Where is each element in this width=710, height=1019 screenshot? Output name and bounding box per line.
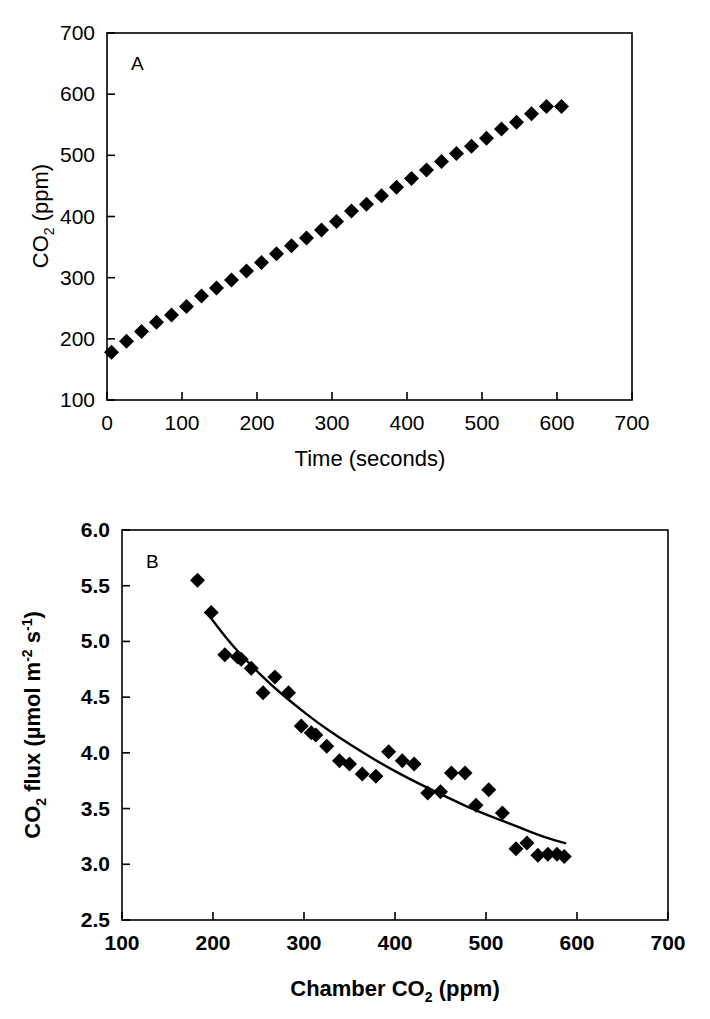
data-point-marker	[355, 767, 370, 782]
fit-curve-path	[208, 615, 565, 843]
data-point-marker	[449, 146, 464, 161]
chart-panel-b: 1002003004005006007002.53.03.54.04.55.05…	[0, 500, 710, 1019]
data-point-marker	[224, 273, 239, 288]
data-point-marker	[468, 798, 483, 813]
data-point-marker	[269, 246, 284, 261]
x-tick-label: 500	[468, 931, 503, 954]
data-point-marker	[244, 661, 259, 676]
data-point-marker	[420, 785, 435, 800]
x-tick-label: 300	[286, 931, 321, 954]
data-point-marker	[359, 197, 374, 212]
panel-b-tick-labels: 1002003004005006007002.53.03.54.04.55.05…	[81, 518, 686, 954]
data-point-marker	[407, 757, 422, 772]
y-tick-label: 4.5	[81, 685, 111, 708]
data-point-marker	[381, 744, 396, 759]
data-point-marker	[434, 154, 449, 169]
data-point-marker	[509, 115, 524, 130]
x-tick-label: 200	[239, 411, 274, 434]
panel-a-data-points	[104, 99, 569, 360]
panel-b-x-axis-title: Chamber CO2 (ppm)	[290, 976, 499, 1005]
y-tick-label: 2.5	[81, 908, 111, 931]
data-point-marker	[329, 214, 344, 229]
data-point-marker	[284, 238, 299, 253]
data-point-marker	[404, 171, 419, 186]
panel-b-y-title-rest: )	[20, 611, 45, 618]
data-point-marker	[149, 315, 164, 330]
y-tick-label: 300	[60, 266, 95, 289]
data-point-marker	[479, 131, 494, 146]
x-tick-label: 100	[104, 931, 139, 954]
data-point-marker	[524, 106, 539, 121]
data-point-marker	[256, 685, 271, 700]
data-point-marker	[374, 188, 389, 203]
y-tick-label: 3.0	[81, 852, 110, 875]
data-point-marker	[494, 122, 509, 137]
data-point-marker	[179, 299, 194, 314]
y-tick-label: 4.0	[81, 741, 110, 764]
data-point-marker	[194, 289, 209, 304]
panel-b-y-title-base: CO	[20, 806, 45, 839]
y-tick-label: 400	[60, 205, 95, 228]
panel-a-y-title-rest: (ppm)	[28, 164, 53, 228]
data-point-marker	[554, 99, 569, 114]
panel-letter-b: B	[146, 551, 159, 572]
data-point-marker	[539, 99, 554, 114]
panel-b-y-axis-title: CO2 flux (µmol m-2 s-1)	[19, 611, 49, 839]
data-point-marker	[239, 263, 254, 278]
data-point-marker	[444, 765, 459, 780]
panel-b-x-title-sub: 2	[425, 989, 433, 1005]
panel-b-fit-curve	[208, 615, 565, 843]
panel-a-plot-frame	[107, 33, 632, 400]
data-point-marker	[481, 782, 496, 797]
y-tick-label: 5.0	[81, 629, 110, 652]
data-point-marker	[209, 281, 224, 296]
panel-a-ticks	[107, 33, 632, 400]
x-tick-label: 100	[164, 411, 199, 434]
x-tick-label: 600	[559, 931, 594, 954]
panel-b-y-title-sub: 2	[33, 798, 49, 806]
chart-panel-a: 0100200300400500600700100200300400500600…	[0, 0, 710, 500]
panel-letter-a: A	[131, 53, 144, 74]
panel-b-y-title-mid2: s	[20, 631, 45, 649]
panel-b-y-title-sup1: -2	[19, 649, 35, 662]
y-tick-label: 200	[60, 327, 95, 350]
data-point-marker	[314, 222, 329, 237]
x-tick-label: 0	[101, 411, 113, 434]
panel-b-svg: 1002003004005006007002.53.03.54.04.55.05…	[0, 500, 710, 1019]
data-point-marker	[164, 307, 179, 322]
panel-b-ticks	[122, 530, 668, 920]
y-tick-label: 600	[60, 82, 95, 105]
x-tick-label: 200	[195, 931, 230, 954]
panel-a-y-axis-title: CO2 (ppm)	[28, 164, 57, 268]
x-tick-label: 700	[614, 411, 649, 434]
panel-a-x-axis-title: Time (seconds)	[295, 446, 446, 471]
panel-b-plot-frame	[122, 530, 668, 920]
y-tick-label: 5.5	[81, 574, 111, 597]
data-point-marker	[344, 203, 359, 218]
x-tick-label: 600	[539, 411, 574, 434]
x-tick-label: 400	[389, 411, 424, 434]
y-tick-label: 700	[60, 21, 95, 44]
data-point-marker	[281, 685, 296, 700]
x-tick-label: 300	[314, 411, 349, 434]
x-tick-label: 400	[377, 931, 412, 954]
panel-b-y-title-mid: flux (µmol m	[20, 662, 45, 798]
panel-a-y-title-base: CO	[28, 235, 53, 268]
data-point-marker	[190, 573, 205, 588]
figure-container: 0100200300400500600700100200300400500600…	[0, 0, 710, 1019]
data-point-marker	[368, 769, 383, 784]
data-point-marker	[299, 230, 314, 245]
panel-a-svg: 0100200300400500600700100200300400500600…	[0, 0, 710, 500]
data-point-marker	[204, 605, 219, 620]
panel-b-x-title-rest: (ppm)	[433, 976, 500, 1001]
x-tick-label: 500	[464, 411, 499, 434]
y-tick-label: 500	[60, 143, 95, 166]
data-point-marker	[319, 739, 334, 754]
panel-a-y-title-sub: 2	[41, 227, 57, 235]
data-point-marker	[458, 765, 473, 780]
data-point-marker	[134, 324, 149, 339]
data-point-marker	[119, 334, 134, 349]
data-point-marker	[217, 647, 232, 662]
panel-b-y-title-sup2: -1	[19, 618, 35, 631]
y-tick-label: 6.0	[81, 518, 110, 541]
